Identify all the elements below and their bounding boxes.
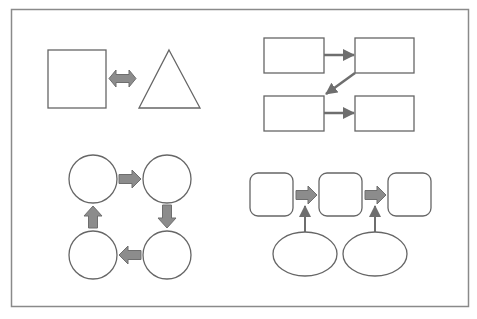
rect-4: [355, 96, 414, 131]
ellipse-1: [273, 232, 337, 276]
rounded-square-3: [388, 173, 431, 216]
ellipse-2: [343, 232, 407, 276]
rounded-square-2: [319, 173, 362, 216]
diagram-canvas: [0, 0, 477, 319]
rect-3: [264, 96, 324, 131]
circle-2: [143, 155, 191, 203]
circle-1: [69, 155, 117, 203]
square-shape: [48, 50, 106, 108]
circle-3: [143, 231, 191, 279]
rect-1: [264, 38, 324, 73]
circle-4: [69, 231, 117, 279]
rect-2: [355, 38, 414, 73]
rounded-square-1: [250, 173, 293, 216]
